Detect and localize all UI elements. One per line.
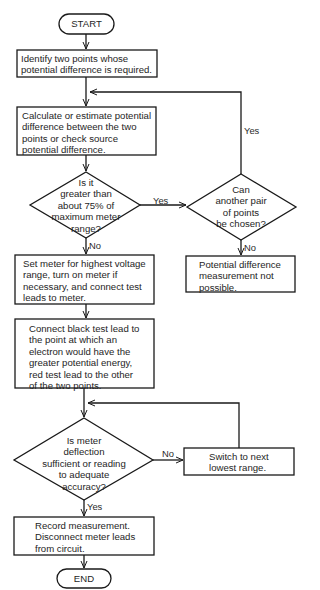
decision-another-pair: Can another pair of points be chosen? bbox=[200, 184, 282, 230]
edge-label-greater-yes: Yes bbox=[153, 195, 168, 206]
edge-label-greater-no: No bbox=[89, 240, 101, 251]
decision-deflection-ok: Is meter deflection sufficient or readin… bbox=[28, 435, 140, 492]
step-identify-points: Identify two points whose potential diff… bbox=[21, 53, 157, 76]
end-terminal: END bbox=[57, 573, 111, 584]
step-set-meter: Set meter for highest voltage range, tur… bbox=[23, 258, 154, 304]
step-switch-range: Switch to next lowest range. bbox=[209, 451, 294, 474]
start-terminal: START bbox=[59, 18, 114, 29]
step-not-possible: Potential difference measurement not pos… bbox=[199, 259, 295, 293]
step-connect-leads: Connect black test lead to the point at … bbox=[29, 323, 154, 391]
step-record-measurement: Record measurement. Disconnect meter lea… bbox=[35, 520, 154, 554]
edge-label-deflection-yes: Yes bbox=[87, 501, 102, 512]
edge-label-another-no: No bbox=[244, 242, 256, 253]
step-calculate-potential: Calculate or estimate potential differen… bbox=[22, 110, 156, 156]
edge-label-another-yes: Yes bbox=[244, 125, 259, 136]
decision-greater-75: Is it greater than about 75% of maximum … bbox=[40, 177, 132, 234]
edge-label-deflection-no: No bbox=[162, 448, 174, 459]
